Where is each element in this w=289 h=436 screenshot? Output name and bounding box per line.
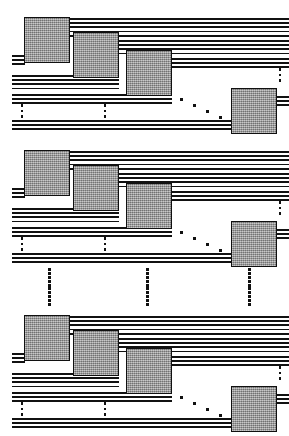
bus-mid-3-line: [119, 342, 289, 344]
stubs-right-3-line: [277, 402, 289, 404]
bus-low-1-line: [12, 102, 172, 104]
ellipsis-dot: [21, 248, 24, 251]
ellipsis-dot: [219, 414, 222, 417]
pe-2-4[interactable]: [231, 221, 277, 267]
bus-bottom-2-line: [12, 261, 231, 263]
pe-2-1[interactable]: [24, 150, 70, 196]
ellipsis-dot: [219, 249, 222, 252]
bus-left-3-line: [12, 381, 119, 383]
bus-third-2-line: [172, 199, 289, 201]
ellipsis-dot: [180, 396, 183, 399]
stubs-right-1-line: [277, 100, 289, 102]
stubs-right-3-line: [277, 398, 289, 400]
pe-1-4[interactable]: [231, 88, 277, 134]
ellipsis-dot: [146, 303, 149, 306]
bus-third-1-line: [172, 66, 289, 68]
block-3: [0, 308, 289, 430]
ellipsis-dot: [21, 408, 24, 411]
bus-third-2-line: [172, 191, 289, 193]
ellipsis-dot: [248, 291, 251, 294]
ellipsis-dot: [21, 413, 24, 416]
ellipsis-dot: [104, 248, 107, 251]
vdots-3-b: [103, 402, 107, 416]
ellipsis-dot: [146, 276, 149, 279]
diagram-canvas: [0, 0, 289, 436]
stubs-left-1-line: [12, 63, 25, 65]
ellipsis-dot: [193, 237, 196, 240]
bus-third-1-line: [172, 58, 289, 60]
bus-low-3-line: [12, 400, 172, 402]
pe-2-3[interactable]: [126, 183, 172, 229]
pe-3-1[interactable]: [24, 315, 70, 361]
ellipsis-dot: [248, 295, 251, 298]
ellipsis-dot: [48, 280, 51, 283]
ellipsis-dot: [146, 291, 149, 294]
bus-bottom-1-line: [12, 120, 231, 122]
pe-1-3[interactable]: [126, 50, 172, 96]
ellipsis-dot: [104, 115, 107, 118]
bus-bottom-2-line: [12, 253, 231, 255]
ellipsis-dot: [193, 402, 196, 405]
vdots-1-c: [278, 68, 282, 82]
ellipsis-dot: [21, 237, 24, 240]
ellipsis-dot: [279, 79, 282, 82]
bus-third-3-line: [172, 360, 289, 362]
pe-3-3[interactable]: [126, 348, 172, 394]
bus-mid-2-line: [119, 173, 289, 175]
sep-col-mid: [145, 268, 149, 306]
bus-top-2-line: [70, 151, 289, 153]
stubs-left-2-line: [12, 196, 25, 198]
bus-bottom-2-line: [12, 257, 231, 259]
bus-left-3-line: [12, 377, 119, 379]
ellipsis-dot: [48, 272, 51, 275]
bus-bottom-1-line: [12, 124, 231, 126]
sep-col-left: [47, 268, 51, 306]
bus-left-2-line: [12, 212, 119, 214]
bus-top-3-line: [70, 320, 289, 322]
ellipsis-dot: [146, 284, 149, 287]
bus-top-3-line: [70, 324, 289, 326]
pe-1-1[interactable]: [24, 17, 70, 63]
vdots-1-a: [20, 104, 24, 118]
ellipsis-dot: [48, 287, 51, 290]
ellipsis-dot: [279, 372, 282, 375]
ellipsis-dot: [104, 243, 107, 246]
pe-1-2[interactable]: [73, 32, 119, 78]
vdots-1-b: [103, 104, 107, 118]
bus-third-3-line: [172, 356, 289, 358]
ellipsis-dot: [279, 366, 282, 369]
stubs-right-3-line: [277, 394, 289, 396]
ellipsis-dot: [248, 303, 251, 306]
ellipsis-dot: [48, 295, 51, 298]
bus-bottom-3-line: [12, 418, 231, 420]
ellipsis-dot: [248, 268, 251, 271]
ellipsis-dot: [146, 295, 149, 298]
bus-low-2-line: [12, 231, 172, 233]
bus-mid-1-line: [119, 44, 289, 46]
vdots-3-a: [20, 402, 24, 416]
ellipsis-dot: [180, 98, 183, 101]
bus-top-2-line: [70, 159, 289, 161]
bus-third-3-line: [172, 364, 289, 366]
bus-low-1-line: [12, 98, 172, 100]
pe-2-2[interactable]: [73, 165, 119, 211]
ellipsis-dot: [146, 272, 149, 275]
stubs-right-2-line: [277, 233, 289, 235]
pe-3-2[interactable]: [73, 330, 119, 376]
bus-low-2-line: [12, 235, 172, 237]
ellipsis-dot: [279, 201, 282, 204]
ellipsis-dot: [21, 115, 24, 118]
diag-dots-3: [180, 396, 228, 418]
ellipsis-dot: [104, 402, 107, 405]
ellipsis-dot: [48, 299, 51, 302]
bus-third-2-line: [172, 195, 289, 197]
ellipsis-dot: [248, 280, 251, 283]
ellipsis-dot: [279, 74, 282, 77]
block-2: [0, 143, 289, 265]
pe-3-4[interactable]: [231, 386, 277, 432]
stubs-right-1-line: [277, 104, 289, 106]
ellipsis-dot: [146, 299, 149, 302]
ellipsis-dot: [193, 104, 196, 107]
bus-bottom-3-line: [12, 422, 231, 424]
ellipsis-dot: [48, 284, 51, 287]
